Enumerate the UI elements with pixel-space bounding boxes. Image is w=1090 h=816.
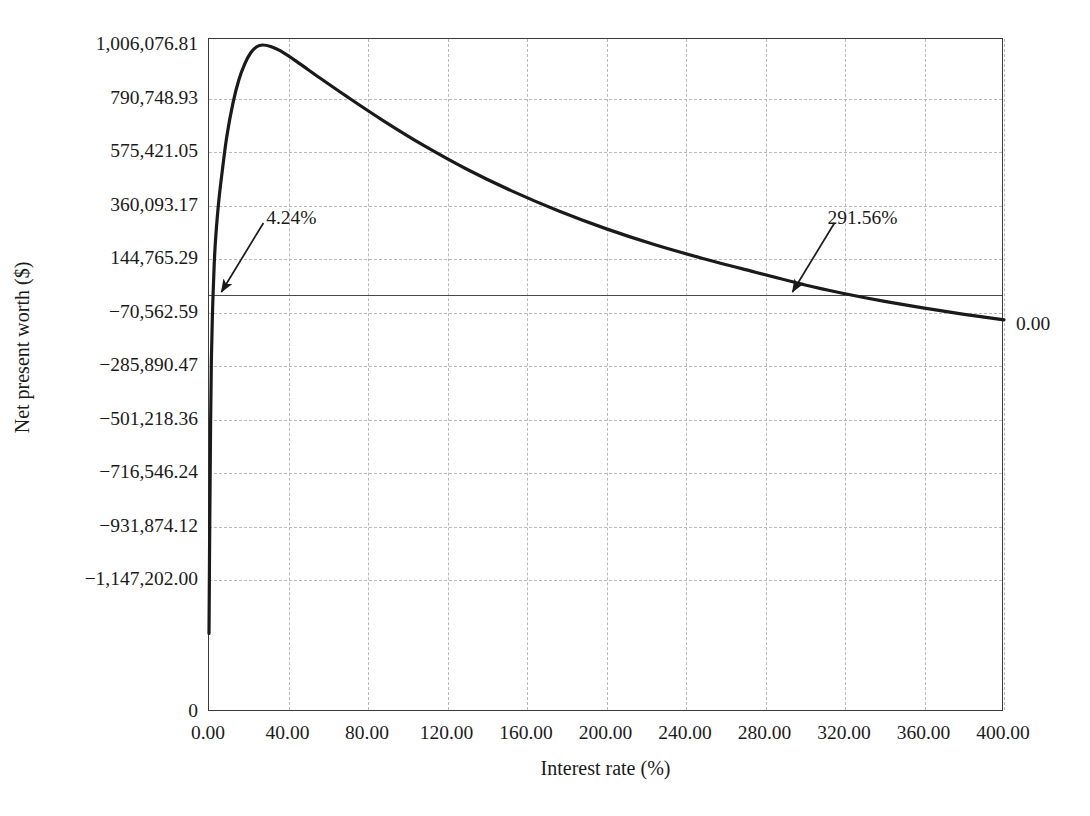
annotation-label-upper-irr: 291.56% [828, 207, 898, 229]
plot-area: 4.24%291.56% [208, 38, 1003, 711]
y-tick-label: −716,546.24 [0, 462, 198, 482]
y-tick-label: 790,748.93 [0, 88, 198, 108]
y-tick-label: 575,421.05 [0, 141, 198, 161]
annotation-arrow-upper-irr [792, 223, 834, 292]
y-tick-label: −70,562.59 [0, 302, 198, 322]
x-tick-label: 400.00 [943, 723, 1063, 743]
annotation-arrows [209, 39, 1004, 712]
y-tick-label: 0 [0, 701, 198, 721]
y-tick-label: 360,093.17 [0, 195, 198, 215]
x-gridline [1004, 39, 1005, 710]
zero-level-label: 0.00 [1016, 313, 1050, 335]
y-tick-label: −285,890.47 [0, 355, 198, 375]
y-tick-label: 1,006,076.81 [0, 34, 198, 54]
y-tick-label: −501,218.36 [0, 409, 198, 429]
y-tick-label: 144,765.29 [0, 248, 198, 268]
annotation-label-lower-irr: 4.24% [266, 207, 316, 229]
npw-vs-interest-rate-figure: Net present worth ($) 1,006,076.81790,74… [0, 0, 1090, 816]
y-tick-label: −931,874.12 [0, 516, 198, 536]
y-tick-label: −1,147,202.00 [0, 569, 198, 589]
x-axis-title: Interest rate (%) [208, 757, 1003, 780]
annotation-arrow-lower-irr [221, 223, 263, 292]
